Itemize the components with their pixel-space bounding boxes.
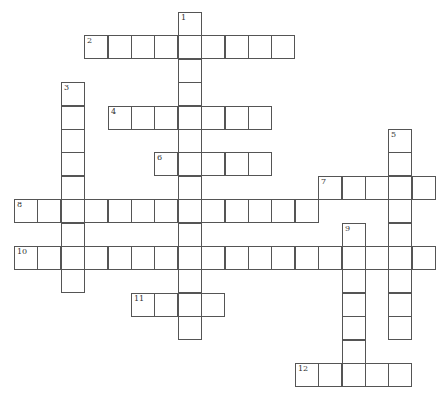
crossword-cell[interactable] — [365, 363, 389, 387]
crossword-cell[interactable] — [225, 199, 249, 223]
crossword-cell[interactable] — [178, 176, 202, 200]
crossword-cell[interactable] — [388, 199, 412, 223]
crossword-cell[interactable] — [37, 246, 61, 270]
crossword-cell[interactable] — [318, 246, 342, 270]
crossword-cell[interactable] — [61, 106, 85, 130]
crossword-cell[interactable] — [412, 176, 436, 200]
crossword-cell[interactable]: 7 — [318, 176, 342, 200]
crossword-cell[interactable] — [248, 106, 272, 130]
crossword-cell[interactable] — [342, 363, 366, 387]
crossword-cell[interactable] — [388, 223, 412, 247]
crossword-cell[interactable] — [61, 269, 85, 293]
crossword-cell[interactable] — [201, 199, 225, 223]
crossword-cell[interactable] — [61, 223, 85, 247]
crossword-cell[interactable]: 4 — [108, 106, 132, 130]
crossword-cell[interactable] — [342, 246, 366, 270]
crossword-cell[interactable] — [201, 152, 225, 176]
crossword-cell[interactable] — [342, 269, 366, 293]
crossword-cell[interactable] — [388, 316, 412, 340]
crossword-cell[interactable] — [365, 246, 389, 270]
crossword-cell[interactable] — [225, 35, 249, 59]
crossword-cell[interactable] — [388, 269, 412, 293]
crossword-cell[interactable] — [318, 363, 342, 387]
crossword-cell[interactable] — [178, 59, 202, 83]
crossword-cell[interactable] — [225, 106, 249, 130]
crossword-cell[interactable] — [37, 199, 61, 223]
crossword-cell[interactable] — [178, 129, 202, 153]
crossword-cell[interactable]: 10 — [14, 246, 38, 270]
crossword-cell[interactable] — [388, 176, 412, 200]
crossword-cell[interactable]: 3 — [61, 82, 85, 106]
crossword-cell[interactable] — [84, 199, 108, 223]
crossword-cell[interactable] — [61, 199, 85, 223]
crossword-cell[interactable] — [178, 106, 202, 130]
crossword-cell[interactable]: 11 — [131, 293, 155, 317]
crossword-cell[interactable] — [178, 316, 202, 340]
clue-number: 3 — [64, 84, 69, 92]
crossword-cell[interactable] — [61, 129, 85, 153]
crossword-cell[interactable] — [154, 106, 178, 130]
crossword-cell[interactable] — [295, 199, 319, 223]
crossword-cell[interactable] — [131, 199, 155, 223]
crossword-cell[interactable] — [271, 199, 295, 223]
clue-number: 7 — [321, 178, 326, 186]
crossword-cell[interactable] — [295, 246, 319, 270]
crossword-cell[interactable] — [178, 152, 202, 176]
crossword-cell[interactable] — [178, 82, 202, 106]
crossword-cell[interactable] — [248, 199, 272, 223]
crossword-cell[interactable] — [178, 35, 202, 59]
crossword-cell[interactable]: 5 — [388, 129, 412, 153]
crossword-cell[interactable] — [178, 246, 202, 270]
crossword-cell[interactable] — [271, 35, 295, 59]
crossword-grid: 123456789101112 — [0, 0, 438, 406]
clue-number: 2 — [87, 37, 92, 45]
crossword-cell[interactable] — [248, 35, 272, 59]
crossword-cell[interactable] — [388, 293, 412, 317]
crossword-cell[interactable] — [178, 199, 202, 223]
crossword-cell[interactable] — [131, 106, 155, 130]
crossword-cell[interactable] — [342, 176, 366, 200]
crossword-cell[interactable] — [154, 293, 178, 317]
crossword-cell[interactable] — [365, 176, 389, 200]
crossword-cell[interactable] — [248, 152, 272, 176]
clue-number: 11 — [134, 295, 144, 303]
clue-number: 6 — [157, 154, 162, 162]
crossword-cell[interactable] — [178, 223, 202, 247]
crossword-cell[interactable] — [131, 246, 155, 270]
crossword-cell[interactable] — [61, 246, 85, 270]
crossword-cell[interactable] — [388, 152, 412, 176]
crossword-cell[interactable] — [225, 246, 249, 270]
crossword-cell[interactable] — [178, 293, 202, 317]
crossword-cell[interactable] — [201, 106, 225, 130]
crossword-cell[interactable] — [201, 246, 225, 270]
crossword-cell[interactable]: 2 — [84, 35, 108, 59]
crossword-cell[interactable] — [154, 199, 178, 223]
crossword-cell[interactable] — [342, 316, 366, 340]
crossword-cell[interactable] — [154, 35, 178, 59]
crossword-cell[interactable] — [201, 35, 225, 59]
crossword-cell[interactable] — [84, 246, 108, 270]
crossword-cell[interactable] — [61, 152, 85, 176]
crossword-cell[interactable] — [388, 246, 412, 270]
crossword-cell[interactable] — [225, 152, 249, 176]
crossword-cell[interactable] — [271, 246, 295, 270]
crossword-cell[interactable] — [412, 246, 436, 270]
crossword-cell[interactable]: 12 — [295, 363, 319, 387]
crossword-cell[interactable] — [154, 246, 178, 270]
crossword-cell[interactable] — [342, 293, 366, 317]
crossword-cell[interactable] — [388, 363, 412, 387]
crossword-cell[interactable] — [201, 293, 225, 317]
crossword-cell[interactable]: 9 — [342, 223, 366, 247]
crossword-cell[interactable] — [61, 176, 85, 200]
crossword-cell[interactable] — [248, 246, 272, 270]
clue-number: 12 — [298, 365, 308, 373]
crossword-cell[interactable]: 1 — [178, 12, 202, 36]
crossword-cell[interactable] — [178, 269, 202, 293]
crossword-cell[interactable] — [342, 340, 366, 364]
crossword-cell[interactable] — [108, 246, 132, 270]
crossword-cell[interactable] — [131, 35, 155, 59]
crossword-cell[interactable]: 6 — [154, 152, 178, 176]
crossword-cell[interactable] — [108, 35, 132, 59]
crossword-cell[interactable]: 8 — [14, 199, 38, 223]
crossword-cell[interactable] — [108, 199, 132, 223]
